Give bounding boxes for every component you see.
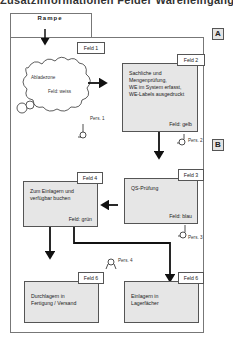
feld5-line: Durchlagern in (31, 293, 76, 300)
feld4-line: verfügbar buchen (30, 195, 74, 202)
feld2-line: WE-Labels ausgedruckt (129, 91, 184, 98)
person-icon (106, 259, 116, 269)
feld4-line: Zum Einlagern und (30, 188, 74, 195)
feld1-color: Feld: weiss (48, 89, 71, 94)
feld5-box: Durchlagern in Fertigung / Versand (24, 281, 99, 323)
feld3-box: QS-Prüfung Feld: blau (124, 178, 198, 224)
feld6-line: Einlagern in (131, 293, 159, 300)
pers4-label: Pers. 4 (118, 258, 133, 263)
feld6-box: Einlagern in Lagerfächer (124, 281, 199, 323)
feld4-box: Zum Einlagern und verfügbar buchen Feld:… (23, 181, 98, 227)
feld2-box: Sachliche und Mengenprüfung, WE im Syste… (122, 63, 198, 132)
feld5-tag: Feld 6 (78, 272, 104, 284)
pers2-label: Pers. 2 (188, 138, 203, 143)
feld3-text: QS-Prüfung (131, 185, 158, 192)
feld6-tag: Feld 6 (178, 272, 204, 284)
feld2-tag: Feld 2 (177, 54, 205, 66)
feld2-line: Mengenprüfung, (129, 77, 184, 84)
feld3-color: Feld: blau (169, 213, 192, 220)
feld1-text: Abladezone (31, 75, 55, 80)
pers1-label: Pers. 1 (90, 116, 105, 121)
feld4-color: Feld: grün (69, 216, 92, 223)
cloud-icon (17, 57, 90, 113)
feld4-tag: Feld 4 (77, 172, 103, 184)
feld2-color: Feld: gelb (169, 121, 192, 128)
person-icon (178, 225, 186, 238)
feld2-line: WE im System erfasst, (129, 84, 184, 91)
person-icon (177, 134, 185, 145)
pers3-label: Pers. 3 (188, 235, 203, 240)
feld5-line: Fertigung / Versand (31, 300, 76, 307)
person-icon (78, 124, 86, 138)
feld2-line: Sachliche und (129, 70, 184, 77)
feld1-tag: Feld 1 (77, 42, 105, 54)
feld3-tag: Feld 3 (178, 169, 204, 181)
feld6-line: Lagerfächer (131, 300, 159, 307)
